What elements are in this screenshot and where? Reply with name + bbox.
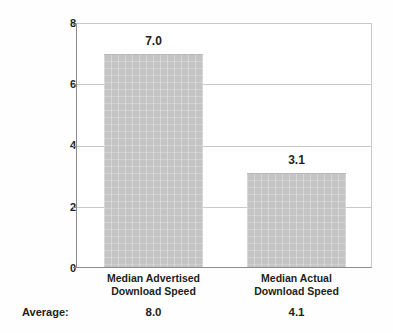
- bar-median-actual[interactable]: [247, 173, 346, 267]
- y-tickmark-6: [73, 84, 77, 85]
- category-label-median-actual: Median Actual Download Speed: [227, 272, 366, 297]
- y-tickmark-0: [73, 267, 77, 268]
- average-value-actual: 4.1: [247, 305, 346, 319]
- bar-value-label-advertised: 7.0: [104, 35, 203, 47]
- bar-value-label-actual: 3.1: [247, 154, 346, 166]
- plot-area: [76, 23, 372, 268]
- y-tickmark-4: [73, 146, 77, 147]
- category-label-line-2: Download Speed: [227, 285, 366, 298]
- y-axis-tick-label-4: 4: [54, 140, 76, 151]
- y-tickmark-2: [73, 207, 77, 208]
- average-row: Average: 8.0 4.1: [0, 305, 393, 325]
- y-tickmark-8: [73, 24, 77, 25]
- y-axis-tick-label-8: 8: [54, 18, 76, 29]
- bar-chart-figure: 8 6 4 2 0 7.0 3.1 Median Advertised Down…: [0, 0, 393, 333]
- bar-median-advertised[interactable]: [104, 54, 203, 267]
- category-label-line-1: Median Advertised: [84, 272, 223, 285]
- average-row-label: Average:: [22, 305, 69, 319]
- category-label-line-1: Median Actual: [227, 272, 366, 285]
- average-value-advertised: 8.0: [104, 305, 203, 319]
- category-label-median-advertised: Median Advertised Download Speed: [84, 272, 223, 297]
- category-label-line-2: Download Speed: [84, 285, 223, 298]
